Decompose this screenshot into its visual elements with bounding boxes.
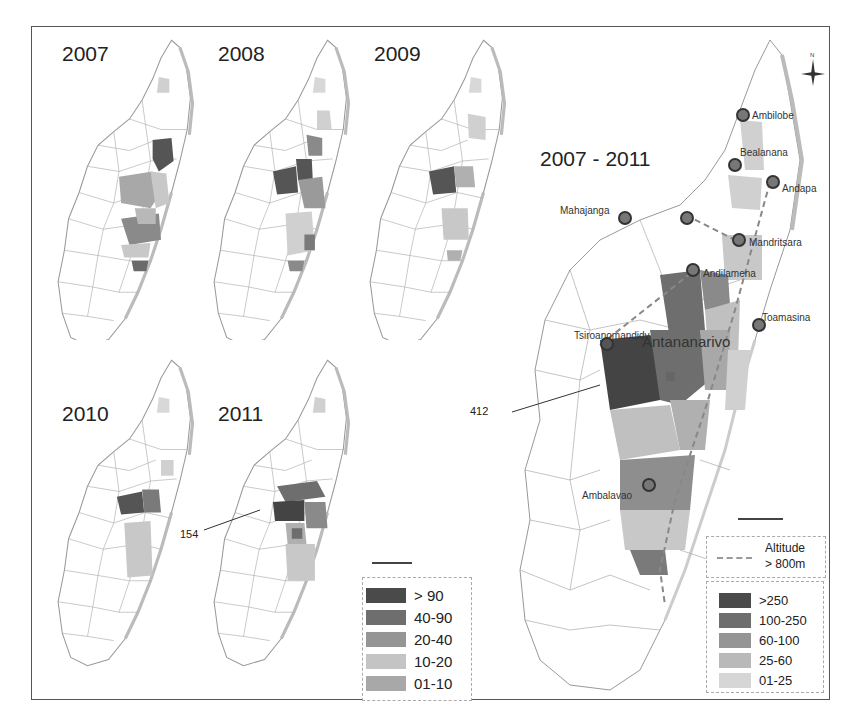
year-label: 2007	[62, 42, 109, 66]
city-label: Mandritsara	[749, 237, 802, 248]
map-2007: 2007	[36, 30, 206, 340]
annotation-154: 154	[180, 528, 198, 540]
big-legend: >250 100-250 60-100 25-60 01-25	[706, 581, 824, 693]
svg-text:N: N	[810, 52, 814, 58]
legend-item: 60-100	[719, 630, 823, 650]
city-label: Bealanana	[740, 147, 788, 158]
big-scale-bar	[738, 514, 783, 520]
year-label: 2009	[374, 42, 421, 66]
city-label-capital: Antananarivo	[642, 333, 730, 350]
north-arrow-icon: N	[798, 50, 828, 90]
altitude-legend: Altitude > 800m	[706, 536, 826, 578]
city-label: Tsiroanomandidy	[574, 330, 650, 341]
legend-item: > 90	[366, 584, 471, 606]
year-label: 2010	[62, 402, 109, 426]
city-label: Andapa	[782, 183, 816, 194]
legend-item: 01-10	[366, 672, 471, 694]
legend-item: 40-90	[366, 606, 471, 628]
legend-item: 100-250	[719, 610, 823, 630]
map-2008: 2008	[192, 30, 362, 340]
small-legend: > 90 40-90 20-40 10-20 01-10	[362, 577, 472, 701]
year-label: 2011	[218, 402, 263, 426]
map-2011: 2011 154	[192, 350, 362, 670]
big-map-title: 2007 - 2011	[540, 147, 651, 171]
annotation-412: 412	[470, 405, 488, 417]
city-label: Andilamena	[703, 268, 756, 279]
legend-item: 10-20	[366, 650, 471, 672]
small-scale-bar	[372, 558, 412, 564]
city-label: Mahajanga	[560, 205, 609, 216]
legend-item: 20-40	[366, 628, 471, 650]
legend-item: 01-25	[719, 670, 823, 690]
legend-item: >250	[719, 590, 823, 610]
city-label: Ambilobe	[752, 110, 794, 121]
city-label: Toamasina	[762, 312, 810, 323]
year-label: 2008	[218, 42, 265, 66]
map-2010: 2010	[36, 350, 206, 670]
city-label: Ambalavao	[582, 490, 632, 501]
map-2009: 2009	[348, 30, 518, 340]
legend-item: 25-60	[719, 650, 823, 670]
